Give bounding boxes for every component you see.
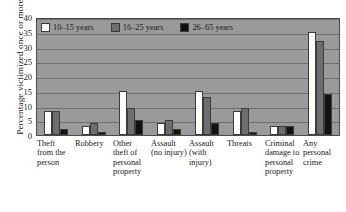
legend-label: 16–25 years: [123, 23, 164, 32]
x-axis-label: Assault (with injury): [188, 139, 226, 177]
bar-group: [150, 19, 188, 135]
y-tick-label: 35: [23, 29, 32, 37]
y-axis-tick-labels: 0510152025303540: [14, 18, 32, 136]
y-tick-label: 30: [23, 44, 32, 52]
bar: [241, 108, 249, 135]
bar: [278, 126, 286, 135]
y-tick-label: 25: [23, 58, 32, 66]
bar-group: [226, 19, 264, 135]
bar: [165, 120, 173, 135]
legend-label: 26–65 years: [192, 23, 233, 32]
bar: [98, 132, 106, 135]
bar-group: [75, 19, 113, 135]
bar: [316, 41, 324, 135]
plot-area: 10–15 years16–25 years26–65 years: [36, 18, 340, 136]
bar: [308, 32, 316, 135]
bar: [127, 108, 135, 135]
bar-groups: [37, 19, 339, 135]
bar: [119, 91, 127, 135]
bar-group: [37, 19, 75, 135]
chart-legend: 10–15 years16–25 years26–65 years: [41, 21, 335, 34]
y-tick-label: 20: [23, 73, 32, 81]
legend-item: 26–65 years: [180, 23, 233, 32]
bar: [60, 129, 68, 135]
x-axis-label: Criminal damage to personal property: [264, 139, 302, 177]
bar: [157, 123, 165, 135]
bar: [286, 126, 294, 135]
bar: [135, 120, 143, 135]
y-tick-label: 5: [28, 117, 32, 125]
bar: [82, 126, 90, 135]
legend-item: 10–15 years: [41, 23, 94, 32]
bar: [44, 111, 52, 135]
bar: [249, 132, 257, 135]
bar: [203, 97, 211, 135]
bar-chart: Percentage victimized once or more 05101…: [0, 0, 346, 212]
x-axis-label: Threats: [226, 139, 264, 177]
bar: [211, 123, 219, 135]
bar: [52, 111, 60, 135]
bar: [195, 91, 203, 135]
x-axis-label: Theft from the person: [36, 139, 74, 177]
bar: [233, 111, 241, 135]
bar-group: [301, 19, 339, 135]
x-axis-label: Robbery: [74, 139, 112, 177]
bar-group: [188, 19, 226, 135]
bar: [324, 94, 332, 135]
bar: [173, 129, 181, 135]
legend-swatch-icon: [111, 23, 120, 32]
x-axis-label: Other theft of personal property: [112, 139, 150, 177]
legend-item: 16–25 years: [111, 23, 164, 32]
bar-group: [264, 19, 302, 135]
y-tick-label: 15: [23, 88, 32, 96]
y-tick-label: 0: [28, 132, 32, 140]
y-tick-label: 10: [23, 103, 32, 111]
x-axis-label: Any personal crime: [302, 139, 340, 177]
legend-swatch-icon: [180, 23, 189, 32]
x-axis-category-labels: Theft from the personRobberyOther theft …: [36, 139, 340, 177]
x-axis-label: Assault (no injury): [150, 139, 188, 177]
bar: [270, 126, 278, 135]
y-tick-label: 40: [23, 14, 32, 22]
legend-label: 10–15 years: [53, 23, 94, 32]
bar-group: [113, 19, 151, 135]
legend-swatch-icon: [41, 23, 50, 32]
bar: [90, 123, 98, 135]
